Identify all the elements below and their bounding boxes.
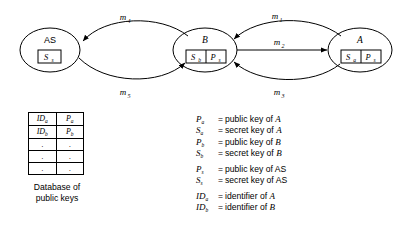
diagram-canvas: AS B A S s S b P s S a P s m 4 m 5 m 1 m… bbox=[0, 0, 403, 227]
table-row: . . bbox=[29, 139, 84, 151]
legend-symbol: Ss bbox=[196, 175, 218, 185]
db-cell-ellipsis: . bbox=[56, 151, 84, 163]
message-arrow-m1 bbox=[234, 21, 341, 39]
key-a-0-sub: a bbox=[353, 57, 356, 63]
database-caption: Database of public keys bbox=[14, 182, 100, 203]
key-box-as bbox=[38, 50, 61, 63]
legend-symbol: IDa bbox=[196, 191, 218, 201]
notation-legend: Pa = public key of A Sa = secret key of … bbox=[196, 114, 396, 214]
legend-equals: = bbox=[218, 191, 225, 201]
legend-description: public key of AS bbox=[225, 164, 286, 174]
node-label-as: AS bbox=[44, 35, 56, 45]
legend-equals: = bbox=[218, 175, 225, 185]
db-cell-id-a: IDa bbox=[29, 113, 57, 126]
legend-description: public key of B bbox=[225, 137, 281, 147]
message-arrow-m5 bbox=[79, 58, 185, 79]
legend-symbol: Ps bbox=[196, 164, 218, 174]
legend-item-ida: IDa = identifier of A bbox=[196, 191, 396, 202]
legend-description: identifier of B bbox=[225, 202, 275, 212]
message-label-m5-sub: 5 bbox=[128, 93, 131, 99]
message-label-m4: m bbox=[120, 12, 127, 22]
key-as-0-sub: s bbox=[51, 57, 53, 63]
db-cell-p-b: Pb bbox=[56, 126, 84, 139]
legend-item-idb: IDb = identifier of B bbox=[196, 202, 396, 213]
table-row: . . bbox=[29, 151, 84, 163]
table-row: IDb Pb bbox=[29, 126, 84, 139]
message-label-m1-sub: 1 bbox=[280, 17, 283, 23]
message-label-m4-sub: 4 bbox=[128, 18, 131, 24]
legend-symbol: Sa bbox=[196, 125, 218, 135]
legend-item-sb: Sb = secret key of B bbox=[196, 148, 396, 159]
message-arrow-m3 bbox=[234, 62, 340, 80]
key-a-1-sub: s bbox=[373, 57, 375, 63]
db-cell-ellipsis: . bbox=[56, 163, 84, 175]
legend-description: secret key of AS bbox=[225, 175, 287, 185]
db-cell-ellipsis: . bbox=[29, 163, 57, 175]
legend-description: secret key of B bbox=[225, 148, 282, 158]
key-a-1: P bbox=[364, 52, 370, 62]
table-row: . . bbox=[29, 163, 84, 175]
legend-symbol: Sb bbox=[196, 148, 218, 158]
legend-equals: = bbox=[218, 202, 225, 212]
database-caption-line1: Database of bbox=[14, 182, 100, 193]
legend-equals: = bbox=[218, 164, 225, 174]
key-b-1-sub: s bbox=[218, 57, 220, 63]
message-arrow-m4 bbox=[83, 21, 188, 41]
public-key-database-table: IDa Pa IDb Pb . . . . . . bbox=[28, 112, 84, 175]
db-cell-ellipsis: . bbox=[56, 139, 84, 151]
legend-description: secret key of A bbox=[225, 125, 282, 135]
legend-symbol: Pb bbox=[196, 137, 218, 147]
db-table-body: IDa Pa IDb Pb . . . . . . bbox=[29, 113, 84, 175]
database-caption-line2: public keys bbox=[14, 193, 100, 204]
db-cell-ellipsis: . bbox=[29, 151, 57, 163]
legend-symbol: IDb bbox=[196, 202, 218, 212]
db-cell-p-a: Pa bbox=[56, 113, 84, 126]
key-b-0-sub: b bbox=[198, 57, 201, 63]
legend-item-sa: Sa = secret key of A bbox=[196, 125, 396, 136]
legend-description: identifier of A bbox=[225, 191, 275, 201]
node-label-a: A bbox=[356, 35, 363, 45]
legend-description: public key of A bbox=[225, 114, 281, 124]
legend-equals: = bbox=[218, 125, 225, 135]
legend-equals: = bbox=[218, 137, 225, 147]
message-label-m2: m bbox=[274, 37, 281, 47]
legend-item-pa: Pa = public key of A bbox=[196, 114, 396, 125]
legend-item-ps: Ps = public key of AS bbox=[196, 164, 396, 175]
db-cell-ellipsis: . bbox=[29, 139, 57, 151]
key-b-1: P bbox=[209, 52, 215, 62]
message-label-m3: m bbox=[274, 87, 281, 97]
db-cell-id-b: IDb bbox=[29, 126, 57, 139]
message-label-m2-sub: 2 bbox=[282, 43, 285, 49]
message-label-m5: m bbox=[120, 87, 127, 97]
legend-equals: = bbox=[218, 148, 225, 158]
legend-item-pb: Pb = public key of B bbox=[196, 137, 396, 148]
message-label-m3-sub: 3 bbox=[281, 93, 285, 99]
message-label-m1: m bbox=[272, 11, 279, 21]
node-label-b: B bbox=[202, 35, 208, 45]
table-row: IDa Pa bbox=[29, 113, 84, 126]
legend-symbol: Pa bbox=[196, 114, 218, 124]
legend-equals: = bbox=[218, 114, 225, 124]
legend-item-ss: Ss = secret key of AS bbox=[196, 175, 396, 186]
